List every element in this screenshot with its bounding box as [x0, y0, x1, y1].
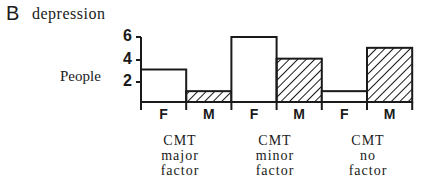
- sex-label: M: [203, 106, 215, 122]
- sex-label: F: [340, 106, 349, 122]
- group-label-major: CMT major factor: [135, 133, 225, 178]
- bar-m-group-0: [186, 91, 231, 102]
- sex-label: M: [384, 106, 396, 122]
- bar-f-group-1: [231, 37, 276, 102]
- group-label-none: CMT no factor: [323, 133, 413, 178]
- bar-f-group-0: [141, 70, 186, 103]
- bars-group: [141, 37, 412, 102]
- bar-m-group-1: [277, 59, 322, 102]
- bar-m-group-2: [367, 48, 412, 102]
- bar-f-group-2: [322, 91, 367, 102]
- sex-label: M: [293, 106, 305, 122]
- group-label-minor: CMT minor factor: [230, 133, 320, 178]
- sex-label: F: [250, 106, 259, 122]
- sex-label: F: [159, 106, 168, 122]
- x-ticks: [141, 102, 412, 110]
